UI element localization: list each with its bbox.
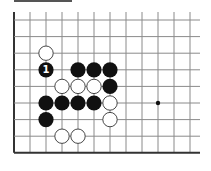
- move-number-label: 1: [43, 64, 50, 75]
- black-stone: [70, 95, 85, 110]
- black-stone: [102, 79, 117, 94]
- black-stone: [38, 112, 53, 127]
- white-stone: [71, 79, 85, 93]
- white-stone: [55, 129, 69, 143]
- white-stone: [39, 46, 53, 60]
- star-points: [156, 101, 160, 105]
- white-stone: [103, 112, 117, 126]
- black-stone: [86, 95, 101, 110]
- go-board: 1: [0, 0, 211, 171]
- black-stone: [38, 95, 53, 110]
- white-stone: [103, 96, 117, 110]
- white-stone: [87, 79, 101, 93]
- black-stone: [54, 95, 69, 110]
- star-point-icon: [156, 101, 160, 105]
- black-stone: [102, 62, 117, 77]
- black-stone: [86, 62, 101, 77]
- white-stone: [55, 79, 69, 93]
- black-stone: 1: [38, 62, 53, 77]
- white-stone: [71, 129, 85, 143]
- black-stone: [70, 62, 85, 77]
